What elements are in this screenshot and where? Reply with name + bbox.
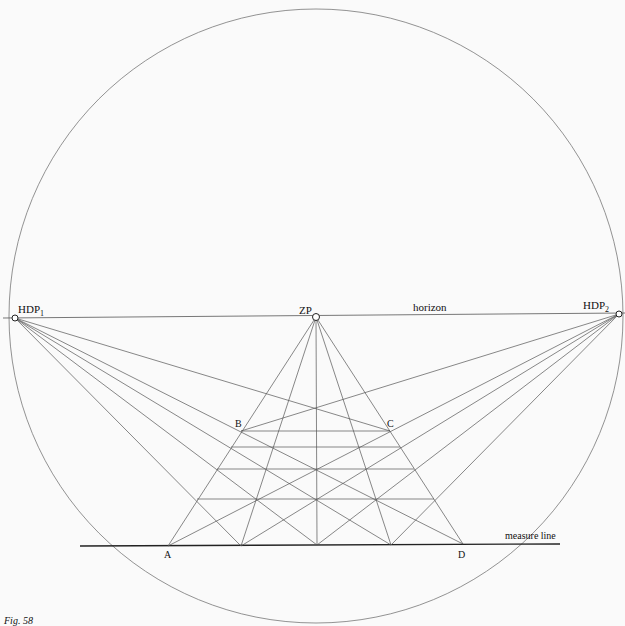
hdp1-label: HDP1 bbox=[18, 303, 44, 318]
zp-point bbox=[313, 314, 320, 321]
figure-caption: Fig. 58 bbox=[3, 615, 33, 626]
hdp1-point bbox=[12, 315, 18, 321]
point-a-label: A bbox=[164, 549, 172, 560]
horizon-label: horizon bbox=[413, 301, 447, 313]
point-d-label: D bbox=[458, 549, 465, 560]
measure-line-label: measure line bbox=[505, 530, 556, 541]
hdp2-point bbox=[616, 311, 622, 317]
zp-label: ZP bbox=[299, 304, 312, 316]
point-b-label: B bbox=[235, 418, 242, 429]
hdp2-label: HDP2 bbox=[583, 299, 609, 314]
perspective-diagram: HDP1 HDP2 ZP horizon measure line A B C … bbox=[0, 0, 625, 626]
measure-line bbox=[80, 544, 560, 546]
construction-lines bbox=[15, 314, 619, 546]
point-c-label: C bbox=[387, 418, 394, 429]
